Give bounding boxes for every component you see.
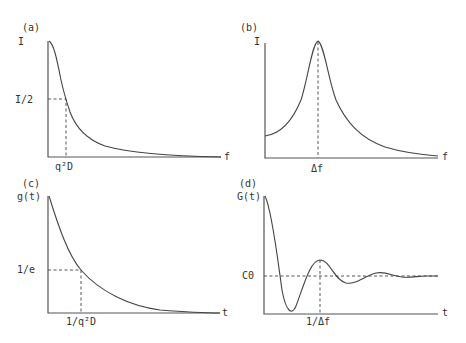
panel-a-ylabel: I xyxy=(18,36,24,47)
panel-a-curve xyxy=(49,41,221,157)
panel-d-ymark: C0 xyxy=(242,270,254,281)
panel-d-tag: (d) xyxy=(239,178,257,189)
panel-d-xmark: 1/Δf xyxy=(306,316,330,327)
panel-d-axes xyxy=(264,196,438,314)
panel-c-ylabel: g(t) xyxy=(17,191,41,202)
panel-c-tag: (c) xyxy=(22,178,40,189)
panel-a-halfmax-guides xyxy=(48,99,66,157)
panel-c-1e-guides xyxy=(48,270,81,313)
panel-a-xmark: q²D xyxy=(55,161,73,172)
panel-a-axes xyxy=(48,41,221,157)
panel-c-axes xyxy=(48,196,220,313)
panel-d-ylabel: G(t) xyxy=(237,191,261,202)
panel-a-tag: (a) xyxy=(22,22,40,33)
panel-b-xlabel: f xyxy=(442,151,448,162)
panel-d-curve xyxy=(265,196,438,311)
panel-c-curve xyxy=(49,196,220,313)
panel-c-xmark: 1/q²D xyxy=(66,316,96,327)
panel-c: (c) g(t) 1/e 1/q²D t xyxy=(17,178,228,327)
panel-b-tag: (b) xyxy=(240,22,258,33)
panel-b-axes xyxy=(265,43,438,158)
panel-b-ylabel: I xyxy=(254,36,260,47)
panel-d: (d) G(t) C0 1/Δf t xyxy=(237,178,448,327)
panel-b: (b) I Δf f xyxy=(240,22,448,174)
panel-c-xlabel: t xyxy=(222,307,228,318)
panel-a: (a) I I/2 q²D f xyxy=(15,22,230,172)
panel-a-xlabel: f xyxy=(224,151,230,162)
panel-d-xlabel: t xyxy=(442,307,448,318)
panel-b-xmark: Δf xyxy=(311,163,323,174)
panel-b-curve xyxy=(265,41,438,156)
panel-a-ymark: I/2 xyxy=(15,94,33,105)
figure: (a) I I/2 q²D f (b) I Δf f (c) g(t) 1/e … xyxy=(0,0,466,343)
panel-c-ymark: 1/e xyxy=(17,264,35,275)
